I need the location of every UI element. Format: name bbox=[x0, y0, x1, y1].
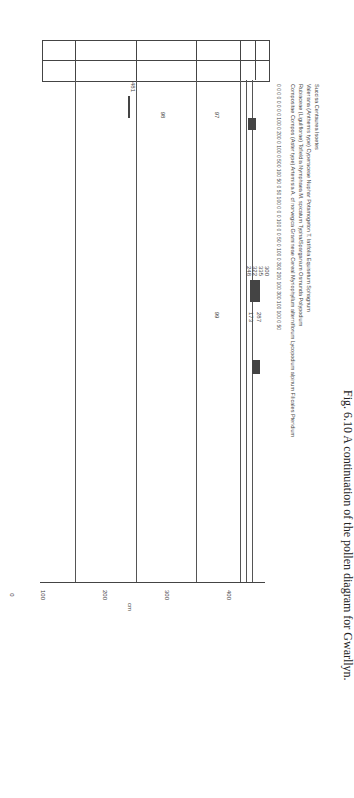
zone-line-VIIb-VIIa bbox=[75, 80, 76, 582]
zone-sep-5 bbox=[255, 40, 256, 80]
zone-sep-1 bbox=[75, 40, 76, 80]
taxa-row-3: Valeriana (Anthemis type) Cyperaceae Nup… bbox=[306, 84, 312, 312]
zone-line-VI-VI bbox=[196, 80, 197, 582]
zone-sep-3 bbox=[196, 40, 197, 80]
annotation-287: 287 bbox=[256, 312, 262, 322]
zone-line-VIIa-VI bbox=[136, 80, 137, 582]
taxa-row-4: Succisa Centaurea Isoetes bbox=[314, 84, 320, 150]
zone-line-Gb bbox=[252, 80, 253, 582]
annotation-300: 300 bbox=[264, 266, 270, 276]
annotation-173: 173 bbox=[248, 312, 254, 322]
zone-sep-2 bbox=[136, 40, 137, 80]
annotation-98-page: 98 bbox=[160, 112, 166, 119]
annotation-481-page: 481 bbox=[130, 82, 136, 92]
zone-sep-4 bbox=[240, 40, 241, 80]
depth-tick-200-page: 200 bbox=[102, 590, 108, 600]
depth-tick-100-page: 100 bbox=[40, 590, 46, 600]
zone-line-Gc bbox=[246, 80, 247, 582]
depth-unit-page: cm bbox=[127, 603, 133, 611]
depth-tick-400-page: 400 bbox=[226, 590, 232, 600]
diagram-page-layer: 99 173 287 248 322 335 300 481 98 97 0 0… bbox=[0, 0, 354, 798]
taxa-row-1: Compositae Compos (Aster type) Artemisia… bbox=[290, 84, 296, 437]
depth-tick-0-page: 0 bbox=[9, 593, 15, 596]
bar-group-gramineae bbox=[250, 280, 260, 302]
figure-caption: Fig. 6.10 A continuation of the pollen d… bbox=[340, 390, 354, 681]
zone-line-Gd bbox=[240, 80, 241, 582]
zone-table-mid bbox=[42, 60, 269, 61]
scale-row: 0 0 0 0 0 0 0 0 100 0 200 0 100 0 500 10… bbox=[276, 84, 282, 330]
bar-group-cyperaceae bbox=[252, 360, 260, 374]
annotation-99: 99 bbox=[214, 312, 220, 319]
depth-tick-300-page: 300 bbox=[164, 590, 170, 600]
zone-table-page bbox=[42, 40, 270, 82]
depth-axis-line bbox=[40, 582, 265, 583]
taxa-row-2: Rubiaceae (Liguliflorae) Tofieldia Nymph… bbox=[298, 84, 304, 326]
annotation-97-page: 97 bbox=[214, 112, 220, 119]
bar-481 bbox=[128, 96, 130, 118]
bar-group-filicales bbox=[248, 118, 256, 130]
pteridium-column bbox=[42, 100, 242, 102]
